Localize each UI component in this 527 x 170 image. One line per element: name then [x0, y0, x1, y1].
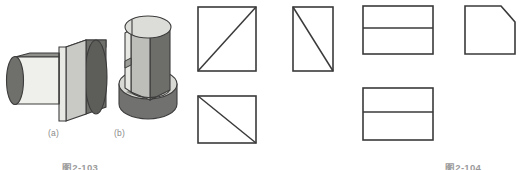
view-top-left-split-rect [363, 6, 433, 54]
orthographic-views-2-105 [357, 0, 527, 150]
shaft-top-face [15, 53, 59, 57]
view-outline-chamfered [465, 6, 515, 54]
pictorial-solids-drawing [0, 0, 190, 128]
cylinder-on-round-base-solid [119, 16, 177, 119]
view-top-right-chamfered-square [465, 6, 515, 54]
shaft-left-end-cap [7, 57, 24, 105]
stepped-cylinder-solid [7, 40, 108, 121]
figure-2-105-group: 图2-105 [357, 0, 527, 170]
view-top-left-square-diagonal-up [198, 7, 256, 71]
orthographic-views-2-104 [190, 0, 360, 150]
figure-sheet: (a) (b) 图2-103 图2-104 [0, 0, 527, 170]
figure-2-103-group: (a) (b) 图2-103 [0, 0, 190, 170]
view-bottom-left-square-diagonal-down [198, 96, 256, 143]
solid-label-a: (a) [48, 128, 59, 138]
flange-front-face [66, 40, 86, 121]
flange-right-end-cap [85, 40, 107, 114]
view-top-right-rect-diagonal-down [293, 7, 333, 71]
view-outline [363, 6, 433, 54]
flange-front-flat [59, 47, 66, 121]
solid-label-b: (b) [114, 128, 125, 138]
view-bottom-left-split-rect [363, 88, 433, 140]
figure-caption-2-103: 图2-103 [62, 160, 98, 170]
figure-2-104-group: 图2-104 [190, 0, 360, 170]
view-outline [363, 88, 433, 140]
